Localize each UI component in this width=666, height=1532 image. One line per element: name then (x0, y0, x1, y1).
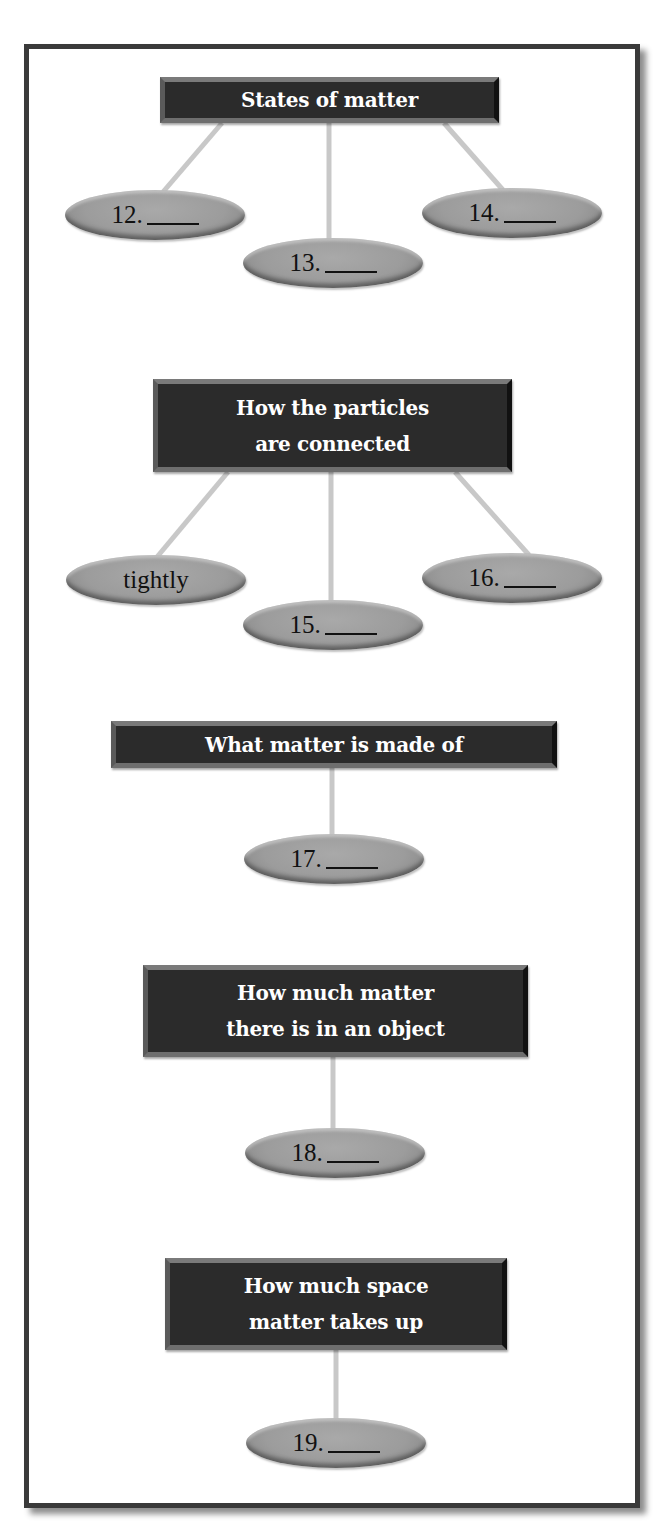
answer-blank[interactable] (325, 615, 377, 635)
topic-label: States of matter (241, 82, 418, 118)
answer-blank[interactable] (504, 203, 556, 223)
answer-blank[interactable] (327, 1143, 379, 1163)
topic-states-of-matter: States of matter (160, 77, 499, 123)
answer-number: 17. (290, 845, 321, 873)
answer-oval-19[interactable]: 19. (246, 1418, 426, 1468)
topic-label: How much matter there is in an object (226, 975, 445, 1047)
answer-number: 14. (468, 199, 499, 227)
topic-particle-connection: How the particles are connected (153, 379, 512, 472)
answer-oval-16[interactable]: 16. (422, 553, 602, 603)
topic-how-much-space: How much space matter takes up (165, 1258, 507, 1350)
topic-label: How the particles are connected (236, 390, 429, 462)
answer-number: 12. (111, 201, 142, 229)
answer-blank[interactable] (147, 205, 199, 225)
answer-blank[interactable] (504, 568, 556, 588)
answer-oval-tightly: tightly (66, 555, 246, 605)
answer-text: tightly (123, 566, 188, 594)
answer-blank[interactable] (326, 849, 378, 869)
answer-number: 19. (292, 1429, 323, 1457)
answer-oval-12[interactable]: 12. (65, 190, 245, 240)
answer-number: 16. (468, 564, 499, 592)
answer-oval-18[interactable]: 18. (245, 1128, 425, 1178)
answer-number: 15. (289, 611, 320, 639)
answer-blank[interactable] (328, 1433, 380, 1453)
topic-label: How much space matter takes up (244, 1268, 429, 1340)
topic-label: What matter is made of (205, 727, 463, 763)
answer-oval-13[interactable]: 13. (243, 238, 423, 288)
answer-number: 18. (291, 1139, 322, 1167)
answer-blank[interactable] (325, 253, 377, 273)
answer-oval-17[interactable]: 17. (244, 834, 424, 884)
answer-oval-15[interactable]: 15. (243, 600, 423, 650)
topic-how-much-matter: How much matter there is in an object (143, 965, 528, 1057)
answer-number: 13. (289, 249, 320, 277)
topic-what-matter-is-made-of: What matter is made of (111, 721, 557, 768)
answer-oval-14[interactable]: 14. (422, 188, 602, 238)
